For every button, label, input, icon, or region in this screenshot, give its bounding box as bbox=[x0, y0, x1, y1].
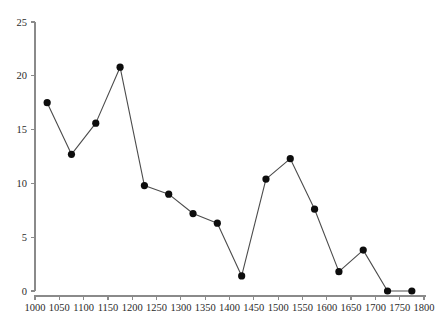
line-chart-plot: 0510152025 10001050110011501200125013001… bbox=[0, 0, 437, 328]
x-tick-label: 1350 bbox=[195, 302, 216, 313]
x-axis: 1000105011001150120012501300135014001450… bbox=[25, 296, 435, 313]
data-point-marker bbox=[44, 99, 51, 106]
x-tick-label: 1000 bbox=[25, 302, 46, 313]
chart-container: 0510152025 10001050110011501200125013001… bbox=[0, 0, 437, 328]
x-tick-label: 1800 bbox=[414, 302, 435, 313]
x-tick-label: 1400 bbox=[219, 302, 240, 313]
x-tick-label: 1750 bbox=[389, 302, 410, 313]
data-point-marker bbox=[311, 206, 318, 213]
data-point-marker bbox=[189, 210, 196, 217]
data-point-marker bbox=[360, 247, 367, 254]
x-tick-label: 1650 bbox=[341, 302, 362, 313]
x-tick-label: 1450 bbox=[243, 302, 264, 313]
y-tick-label: 25 bbox=[17, 17, 28, 28]
x-tick-label: 1500 bbox=[268, 302, 289, 313]
data-point-marker bbox=[335, 268, 342, 275]
data-point-marker bbox=[68, 151, 75, 158]
data-point-marker bbox=[92, 120, 99, 127]
y-axis: 0510152025 bbox=[17, 17, 36, 297]
x-tick-label: 1550 bbox=[292, 302, 313, 313]
x-tick-label: 1700 bbox=[365, 302, 386, 313]
data-point-marker bbox=[116, 64, 123, 71]
data-series bbox=[44, 64, 416, 295]
x-tick-label: 1300 bbox=[170, 302, 191, 313]
series-line bbox=[47, 67, 412, 291]
x-tick-label: 1150 bbox=[98, 302, 119, 313]
y-tick-label: 10 bbox=[17, 178, 28, 189]
data-point-marker bbox=[141, 182, 148, 189]
x-tick-label: 1600 bbox=[316, 302, 337, 313]
data-point-marker bbox=[384, 287, 391, 294]
data-point-marker bbox=[408, 287, 415, 294]
x-tick-label: 1200 bbox=[122, 302, 143, 313]
y-tick-label: 20 bbox=[17, 70, 28, 81]
data-point-marker bbox=[165, 191, 172, 198]
x-tick-label: 1250 bbox=[146, 302, 167, 313]
y-tick-label: 15 bbox=[17, 124, 28, 135]
x-tick-label: 1100 bbox=[73, 302, 94, 313]
data-point-marker bbox=[287, 155, 294, 162]
y-tick-label: 0 bbox=[22, 286, 27, 297]
data-point-marker bbox=[238, 272, 245, 279]
y-tick-label: 5 bbox=[22, 232, 27, 243]
data-point-marker bbox=[214, 220, 221, 227]
x-tick-label: 1050 bbox=[49, 302, 70, 313]
data-point-marker bbox=[262, 176, 269, 183]
